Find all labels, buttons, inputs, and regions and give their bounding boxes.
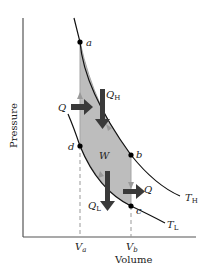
label-q-in: Q: [58, 102, 66, 113]
point-b: [128, 152, 133, 157]
pv-diagram: a b c d Q QH W QL Q TH TL Va Vb: [0, 0, 205, 273]
label-b: b: [136, 149, 142, 160]
label-c: c: [136, 205, 142, 216]
label-th: TH: [185, 192, 198, 205]
label-a: a: [86, 37, 92, 48]
point-a: [77, 39, 82, 44]
label-work: W: [99, 150, 110, 161]
label-ql: QL: [88, 200, 101, 213]
point-c: [128, 203, 133, 208]
y-axis-title: Pressure: [8, 103, 19, 148]
tick-vb: Vb: [126, 241, 138, 254]
label-d: d: [68, 141, 74, 152]
label-q-out: Q: [144, 184, 152, 195]
tick-va: Va: [75, 241, 86, 254]
label-tl: TL: [167, 219, 179, 232]
point-d: [77, 143, 82, 148]
x-axis-title: Volume: [114, 254, 152, 265]
label-qh: QH: [106, 89, 120, 102]
